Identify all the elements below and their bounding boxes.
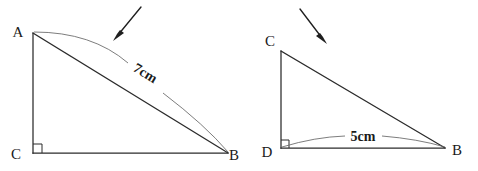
pointer-arrow-left-shaft: [118, 7, 141, 35]
vertex-label-B-left: B: [229, 147, 239, 163]
vertex-label-B-right: B: [452, 142, 462, 158]
measure-arc-DB-part2: [382, 136, 445, 147]
right-triangle-group: 5cm C D B: [262, 9, 462, 160]
vertex-label-D: D: [262, 144, 273, 160]
pointer-arrow-left: [113, 7, 141, 41]
measure-arc-AB-part2: [163, 93, 228, 152]
figure-canvas: 7cm A C B 5cm: [0, 0, 478, 171]
vertex-label-C-right: C: [265, 33, 275, 49]
edge-AB-hypotenuse: [33, 33, 228, 153]
measure-label-5cm: 5cm: [351, 129, 376, 144]
geometry-diagram: 7cm A C B 5cm: [0, 0, 478, 171]
pointer-arrow-left-head: [113, 30, 124, 41]
pointer-arrow-right-shaft: [300, 9, 322, 38]
pointer-arrow-right-head: [316, 33, 327, 44]
left-triangle-group: 7cm A C B: [11, 7, 239, 163]
measure-label-7cm: 7cm: [131, 60, 160, 86]
measure-arc-AB-part1: [34, 32, 128, 63]
vertex-label-C-left: C: [11, 146, 21, 162]
pointer-arrow-right: [300, 9, 327, 44]
measure-arc-DB-part1: [282, 136, 345, 147]
vertex-label-A: A: [13, 24, 24, 40]
right-angle-marker-C: [33, 144, 42, 153]
